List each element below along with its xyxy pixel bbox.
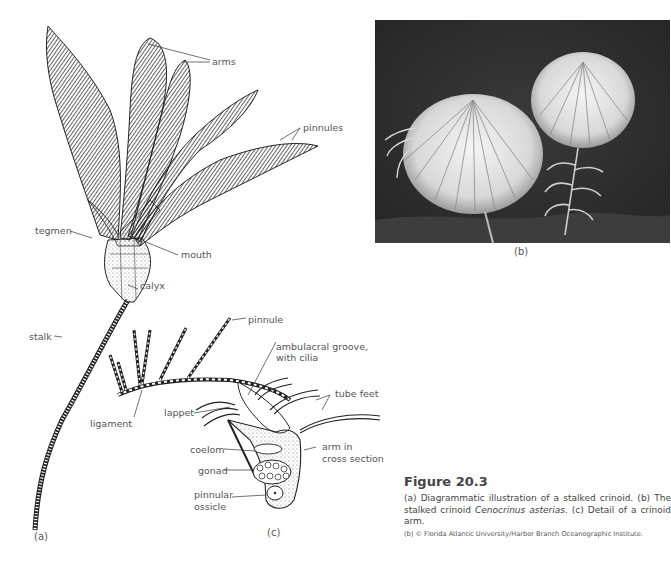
caption-species: Cenocrinus asterias	[475, 505, 565, 515]
label-calyx: calyx	[140, 280, 165, 291]
label-lappet: lappet	[164, 407, 194, 418]
label-arm-in: arm in	[322, 441, 353, 452]
label-gonad: gonad	[198, 465, 228, 476]
label-arms: arms	[212, 56, 236, 67]
figure-caption: Figure 20.3 (a) Diagrammatic illustratio…	[404, 474, 671, 538]
label-ligament: ligament	[90, 418, 132, 429]
label-tegmen: tegmen	[35, 225, 72, 236]
panel-label-b: (b)	[514, 246, 528, 257]
panel-label-a: (a)	[34, 531, 48, 542]
panel-label-c: (c)	[267, 527, 280, 538]
label-pinnules: pinnules	[303, 122, 343, 133]
label-ossicle: ossicle	[194, 501, 226, 512]
figure-title: Figure 20.3	[404, 474, 671, 489]
label-pinnule: pinnule	[248, 314, 283, 325]
label-coelom: coelom	[190, 444, 225, 455]
crinoid-photo	[375, 20, 670, 243]
label-pinnular: pinnular	[194, 489, 233, 500]
label-ambulacral-groove: ambulacral groove,	[276, 341, 368, 352]
label-mouth: mouth	[181, 249, 212, 260]
label-tube-feet: tube feet	[335, 388, 378, 399]
label-ambulacral-cilia: with cilia	[276, 352, 318, 363]
label-stalk: stalk	[29, 331, 52, 342]
label-cross-section: cross section	[322, 453, 384, 464]
photo-content	[375, 20, 670, 243]
figure-credit: (b) © Florida Atlantic University/Harbor…	[404, 530, 671, 538]
figure-caption-text: (a) Diagrammatic illustration of a stalk…	[404, 493, 671, 528]
